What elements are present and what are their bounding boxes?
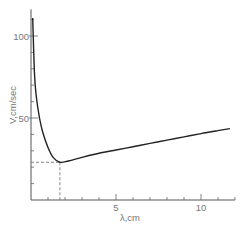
y-tick-label: 50 [18,113,29,124]
chart: 51050100 λ,cm V,cm/sec [0,0,240,233]
x-axis-label: λ,cm [120,212,140,223]
axes: 51050100 [13,9,235,213]
series-line [33,18,230,162]
x-tick-label: 10 [196,202,207,213]
y-axis-label: V,cm/sec [7,86,18,124]
minimum-guides [31,162,60,200]
x-tick-label: 5 [113,202,118,213]
y-tick-label: 100 [13,31,29,42]
